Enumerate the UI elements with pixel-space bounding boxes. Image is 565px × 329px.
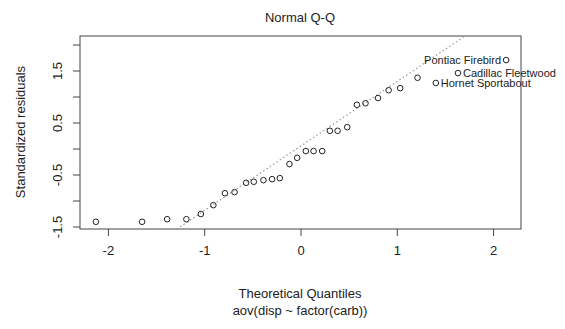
- x-tick-label: -1: [199, 243, 211, 258]
- point-label: Cadillac Fleetwood: [463, 67, 556, 79]
- chart-title: Normal Q-Q: [265, 10, 335, 25]
- qq-reference-line: [177, 36, 465, 229]
- x-axis-subtitle: aov(disp ~ factor(carb)): [233, 303, 368, 318]
- data-point: [269, 176, 275, 182]
- data-point: [232, 189, 238, 195]
- data-point: [375, 95, 381, 101]
- x-tick-label: -2: [103, 243, 115, 258]
- y-tick-label: -1.5: [50, 216, 65, 238]
- data-point: [327, 128, 333, 134]
- data-point: [319, 148, 325, 154]
- x-tick-label: 0: [297, 243, 304, 258]
- qq-plot: Normal Q-Q Hornet SportaboutCadillac Fle…: [0, 0, 565, 329]
- data-point: [184, 216, 190, 222]
- point-labels: Hornet SportaboutCadillac FleetwoodPonti…: [424, 54, 556, 89]
- data-point: [261, 177, 267, 183]
- data-point: [251, 179, 257, 185]
- data-point: [294, 155, 300, 161]
- data-point: [335, 128, 341, 134]
- data-point: [433, 80, 439, 86]
- data-point: [222, 190, 228, 196]
- reference-line: [177, 36, 465, 229]
- data-point: [164, 216, 170, 222]
- y-axis: -1.5-0.50.51.5: [50, 45, 80, 238]
- data-point: [139, 219, 145, 225]
- y-axis-label: Standardized residuals: [13, 65, 28, 198]
- data-point: [93, 219, 99, 225]
- data-point: [287, 161, 293, 167]
- y-tick-label: 0.5: [50, 114, 65, 132]
- x-axis-label: Theoretical Quantiles: [239, 286, 362, 301]
- data-point: [386, 87, 392, 93]
- data-point: [277, 175, 283, 181]
- data-point: [503, 57, 509, 63]
- data-point: [211, 202, 217, 208]
- data-point: [198, 211, 204, 217]
- data-point: [303, 148, 309, 154]
- x-tick-label: 2: [490, 243, 497, 258]
- data-point: [344, 124, 350, 130]
- data-point: [415, 75, 421, 81]
- y-tick-label: -0.5: [50, 164, 65, 186]
- data-point: [397, 85, 403, 91]
- data-point: [311, 148, 317, 154]
- x-tick-label: 1: [394, 243, 401, 258]
- data-point: [243, 180, 249, 186]
- x-axis: -2-1012: [103, 229, 498, 258]
- data-point: [455, 70, 461, 76]
- y-tick-label: 1.5: [50, 62, 65, 80]
- point-label: Pontiac Firebird: [424, 54, 501, 66]
- data-point: [354, 102, 360, 108]
